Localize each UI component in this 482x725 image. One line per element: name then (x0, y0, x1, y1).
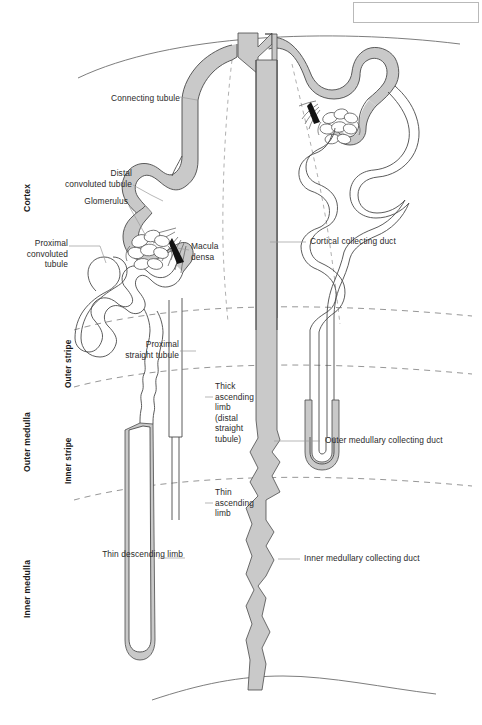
label-thick-ascending-limb: Thick ascending limb (distal straight tu… (215, 381, 273, 445)
figure-canvas: .ln { fill:none; stroke:#4a4a4a; stroke-… (0, 0, 482, 725)
collecting-duct-system (238, 33, 280, 690)
thin-descending-limb-left (125, 423, 155, 660)
label-cortical-collecting-duct: Cortical collecting duct (310, 236, 465, 247)
connecting-tubule-path (122, 44, 237, 221)
zone-label-inner-medulla: Inner medulla (22, 560, 32, 618)
top-right-blank-box (353, 2, 479, 23)
stripe-label-outer-stripe: Outer stripe (64, 340, 73, 388)
zone-label-cortex: Cortex (22, 184, 32, 212)
label-outer-medullary-collecting-duct: Outer medullary collecting duct (325, 435, 477, 446)
label-inner-medullary-collecting-duct: Inner medullary collecting duct (304, 553, 476, 564)
label-glomerulus: Glomerulus (45, 196, 128, 207)
zone-label-outer-medulla: Outer medulla (22, 412, 32, 472)
macula-densa-marker-right (307, 102, 320, 124)
label-connecting-tubule: Connecting tubule (75, 93, 180, 104)
label-macula-densa: Macula densa (191, 241, 243, 262)
label-distal-convoluted-tubule: Distal convoluted tubule (35, 168, 132, 189)
connecting-tubule-right (268, 37, 399, 106)
label-thin-ascending-limb: Thin ascending limb (215, 487, 273, 519)
catchment-dashed-outlines (223, 60, 340, 324)
ascending-limb-left (169, 298, 182, 520)
label-thin-descending-limb: Thin descending limb (60, 549, 183, 560)
stripe-label-inner-stripe: Inner stripe (64, 437, 73, 484)
proximal-straight-tubule-left (140, 356, 159, 424)
label-proximal-convoluted-tubule: Proximal convoluted tubule (20, 238, 68, 270)
label-proximal-straight-tubule: Proximal straight tubule (84, 339, 179, 360)
